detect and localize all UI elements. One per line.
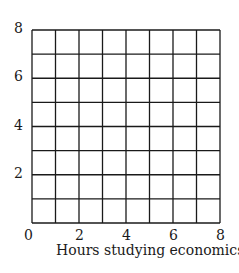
y-tick-label: 2 [14,166,23,180]
x-tick-label: 4 [122,228,131,242]
y-tick-label: 6 [14,69,23,83]
x-tick-label: 8 [216,228,225,242]
y-tick-label: 4 [14,118,23,132]
chart-grid [0,0,239,273]
x-axis-label: Hours studying economics [56,243,239,257]
y-tick-label: 8 [14,21,23,35]
x-tick-label: 6 [169,228,178,242]
x-tick-label: 0 [24,228,33,242]
x-tick-label: 2 [75,228,84,242]
